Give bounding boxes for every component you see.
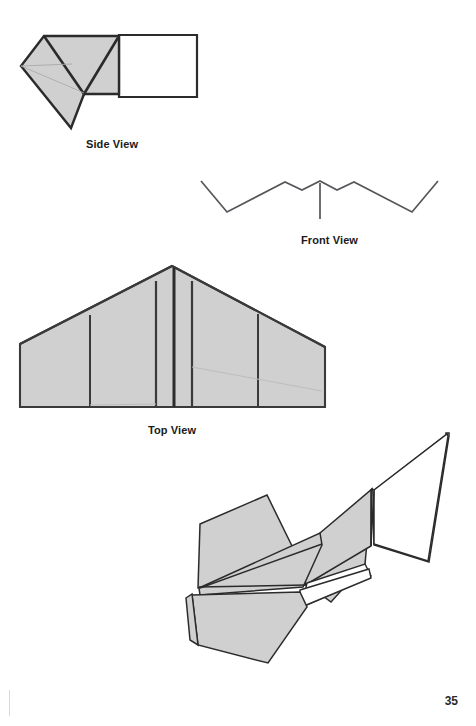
perspective-view-diagram <box>186 433 449 663</box>
top-view-diagram <box>20 266 325 407</box>
side-view-caption: Side View <box>86 138 138 150</box>
page-number: 35 <box>445 694 458 708</box>
front-view-diagram <box>201 181 438 219</box>
front-view-caption: Front View <box>301 234 358 246</box>
side-view-diagram <box>21 35 197 128</box>
book-page: Side View Front View Top View 35 <box>0 0 476 726</box>
side-view-tail-panel <box>119 35 197 97</box>
perspective-lower-left-wing <box>192 592 307 663</box>
perspective-fin-outline <box>374 434 448 561</box>
page-illustrations <box>0 0 476 726</box>
top-view-caption: Top View <box>148 424 196 436</box>
binding-mark <box>9 690 10 716</box>
